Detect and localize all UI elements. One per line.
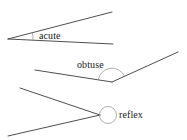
obtuse-ray-left — [35, 70, 112, 82]
reflex-angle-label: reflex — [119, 109, 143, 120]
reflex-ray-lower — [8, 115, 100, 136]
acute-angle-arc — [32, 33, 33, 41]
reflex-ray-upper — [20, 88, 100, 115]
obtuse-ray-right — [112, 52, 178, 82]
reflex-angle-circle-marker — [100, 107, 117, 124]
obtuse-angle-group — [35, 52, 178, 82]
obtuse-angle-label: obtuse — [77, 59, 104, 70]
reflex-angle-group — [8, 88, 117, 136]
acute-angle-label: acute — [39, 30, 61, 41]
angle-types-figure: acute obtuse reflex — [0, 0, 187, 140]
angle-diagram-canvas — [0, 0, 187, 140]
